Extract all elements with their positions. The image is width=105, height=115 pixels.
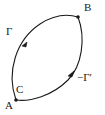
label-point-c: C: [16, 84, 23, 95]
left-arc-arrowhead-icon: [22, 42, 27, 47]
figure-container: Γ −Γ′ A B C: [0, 0, 105, 115]
right-arc-arrowhead-icon: [68, 71, 74, 77]
vertex-dot-a: [14, 98, 18, 102]
vertex-dot-b: [76, 15, 80, 19]
label-vertex-b: B: [84, 2, 91, 13]
label-vertex-a: A: [5, 100, 13, 111]
label-curve-neg-gamma-prime: −Γ′: [77, 72, 92, 83]
contour-diagram-svg: [0, 0, 105, 115]
right-arc-neg-gamma-prime: [16, 17, 82, 100]
label-curve-gamma: Γ: [6, 26, 12, 37]
